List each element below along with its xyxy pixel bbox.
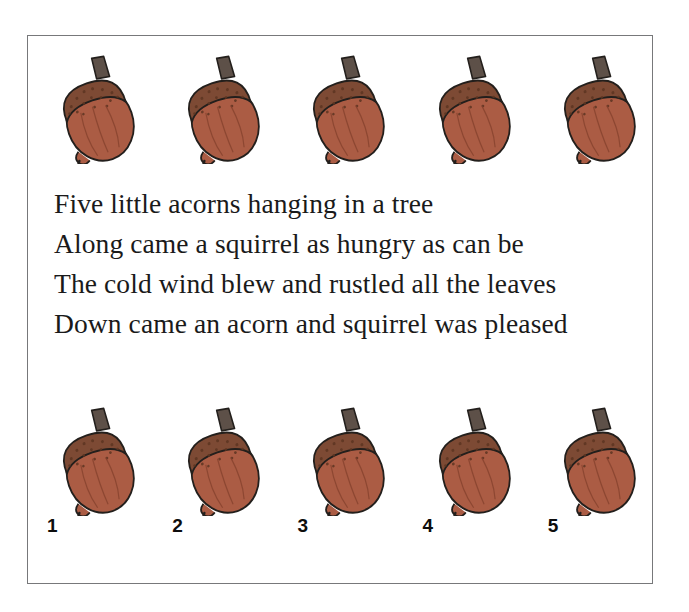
- acorn-icon: [46, 404, 144, 516]
- acorn-icon: [171, 404, 269, 516]
- acorn-number-label: 5: [548, 516, 559, 535]
- acorn-number-label: 3: [297, 516, 308, 535]
- poem-line-4: Down came an acorn and squirrel was plea…: [54, 304, 634, 344]
- poem-line-2: Along came a squirrel as hungry as can b…: [54, 224, 634, 264]
- acorn-cell-bottom-3: 3: [278, 404, 403, 524]
- acorn-icon: [422, 404, 520, 516]
- acorn-icon: [46, 52, 144, 164]
- acorn-cell-bottom-2: 2: [153, 404, 278, 524]
- bottom-acorn-row: 1: [28, 404, 654, 524]
- acorn-icon: [296, 404, 394, 516]
- acorn-number-label: 1: [47, 516, 58, 535]
- acorn-cell-top-2: [153, 52, 278, 172]
- acorn-icon: [547, 404, 645, 516]
- acorn-icon: [547, 52, 645, 164]
- acorn-cell-top-5: [529, 52, 654, 172]
- poem-block: Five little acorns hanging in a tree Alo…: [54, 184, 634, 344]
- worksheet-frame: Five little acorns hanging in a tree Alo…: [27, 35, 653, 584]
- acorn-icon: [171, 52, 269, 164]
- acorn-worksheet: Five little acorns hanging in a tree Alo…: [0, 0, 689, 612]
- top-acorn-row: [28, 52, 654, 172]
- poem-line-1: Five little acorns hanging in a tree: [54, 184, 634, 224]
- acorn-cell-bottom-5: 5: [529, 404, 654, 524]
- acorn-icon: [296, 52, 394, 164]
- acorn-cell-bottom-4: 4: [404, 404, 529, 524]
- acorn-number-label: 4: [423, 516, 434, 535]
- acorn-cell-top-4: [404, 52, 529, 172]
- acorn-cell-top-1: [28, 52, 153, 172]
- poem-line-3: The cold wind blew and rustled all the l…: [54, 264, 634, 304]
- acorn-icon: [422, 52, 520, 164]
- acorn-cell-top-3: [278, 52, 403, 172]
- acorn-cell-bottom-1: 1: [28, 404, 153, 524]
- acorn-number-label: 2: [172, 516, 183, 535]
